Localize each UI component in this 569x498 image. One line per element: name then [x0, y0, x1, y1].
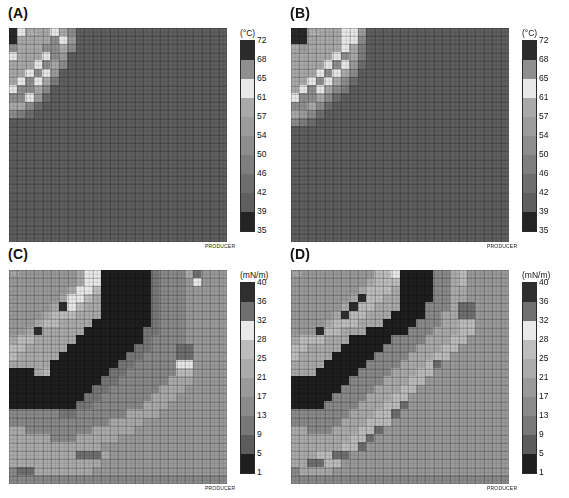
colorbar-band [241, 359, 254, 378]
colorbar-band [523, 98, 536, 117]
panel-b-colorbar: (°C) 7268656157545046423935 [522, 28, 567, 242]
panel-d-colorbar-body [522, 282, 537, 474]
colorbar-tick-label: 21 [257, 373, 266, 381]
colorbar-tick-label: 28 [257, 335, 266, 343]
panel-a-heatmap: INJ PRODUCER [9, 28, 227, 242]
colorbar-band [241, 302, 254, 321]
colorbar-tick-label: 40 [539, 278, 548, 286]
colorbar-tick-label: 50 [539, 150, 548, 158]
panel-b-label: (B) [290, 6, 310, 20]
panel-a: (A) INJ PRODUCER (°C) 726865615754504642… [0, 0, 285, 249]
panel-a-colorbar-title: (°C) [240, 28, 255, 38]
panel-a-injector-label: INJ [29, 30, 37, 36]
colorbar-tick-label: 13 [539, 411, 548, 419]
colorbar-tick-label: 39 [539, 207, 548, 215]
colorbar-tick-label: 50 [257, 150, 266, 158]
panel-c-heatmap: INJ PRODUCER [9, 270, 227, 484]
panel-b: (B) INJ PRODUCER (°C) 726865615754504642… [282, 0, 569, 249]
panel-c-canvas [9, 270, 227, 484]
colorbar-tick-label: 57 [257, 112, 266, 120]
colorbar-tick-label: 46 [539, 169, 548, 177]
colorbar-tick-label: 35 [257, 226, 266, 234]
colorbar-band [241, 340, 254, 359]
colorbar-tick-label: 36 [257, 297, 266, 305]
panel-a-colorbar: (°C) 7268656157545046423935 [240, 28, 285, 242]
colorbar-tick-label: 35 [539, 226, 548, 234]
panel-b-canvas [291, 28, 509, 242]
colorbar-band [241, 79, 254, 98]
panel-b-colorbar-body [522, 40, 537, 232]
panel-b-heatmap: INJ PRODUCER [291, 28, 509, 242]
colorbar-band [241, 435, 254, 454]
panel-d-canvas [291, 270, 509, 484]
colorbar-tick-label: 68 [539, 55, 548, 63]
colorbar-band [523, 359, 536, 378]
colorbar-tick-label: 68 [257, 55, 266, 63]
colorbar-band [523, 174, 536, 193]
colorbar-band [523, 136, 536, 155]
colorbar-band [241, 155, 254, 174]
colorbar-tick-label: 54 [257, 131, 266, 139]
panel-c-producer-label: PRODUCER [205, 485, 235, 491]
colorbar-band [523, 454, 536, 473]
colorbar-band [523, 435, 536, 454]
colorbar-band [523, 321, 536, 340]
colorbar-tick-label: 32 [539, 316, 548, 324]
colorbar-tick-label: 36 [539, 297, 548, 305]
colorbar-tick-label: 40 [257, 278, 266, 286]
colorbar-tick-label: 5 [257, 449, 262, 457]
colorbar-tick-label: 54 [539, 131, 548, 139]
colorbar-tick-label: 61 [257, 93, 266, 101]
colorbar-band [241, 98, 254, 117]
panel-d-producer-label: PRODUCER [487, 485, 517, 491]
panel-d: (D) INJ PRODUCER (mN/m) 4036322825211713… [282, 243, 569, 498]
colorbar-band [241, 60, 254, 79]
panel-b-injector-label: INJ [311, 30, 319, 36]
panel-a-canvas [9, 28, 227, 242]
colorbar-tick-label: 42 [257, 188, 266, 196]
colorbar-tick-label: 21 [539, 373, 548, 381]
colorbar-tick-label: 65 [539, 74, 548, 82]
colorbar-tick-label: 25 [539, 354, 548, 362]
colorbar-band [241, 174, 254, 193]
figure-root: (A) INJ PRODUCER (°C) 726865615754504642… [0, 0, 569, 498]
colorbar-band [241, 136, 254, 155]
colorbar-band [241, 117, 254, 136]
colorbar-tick-label: 1 [539, 468, 544, 476]
colorbar-tick-label: 72 [257, 36, 266, 44]
panel-a-label: (A) [8, 6, 28, 20]
colorbar-band [241, 321, 254, 340]
colorbar-band [523, 302, 536, 321]
colorbar-tick-label: 17 [539, 392, 548, 400]
colorbar-tick-label: 57 [539, 112, 548, 120]
colorbar-tick-label: 46 [257, 169, 266, 177]
colorbar-band [241, 416, 254, 435]
colorbar-tick-label: 9 [539, 430, 544, 438]
panel-d-injector-label: INJ [293, 271, 301, 277]
colorbar-band [523, 283, 536, 302]
colorbar-band [523, 79, 536, 98]
colorbar-tick-label: 5 [539, 449, 544, 457]
colorbar-band [523, 397, 536, 416]
panel-c-injector-label: INJ [11, 271, 19, 277]
colorbar-band [523, 378, 536, 397]
colorbar-band [241, 397, 254, 416]
panel-b-colorbar-title: (°C) [522, 28, 537, 38]
colorbar-tick-label: 13 [257, 411, 266, 419]
panel-c-colorbar: (mN/m) 4036322825211713951 [240, 270, 285, 484]
colorbar-tick-label: 39 [257, 207, 266, 215]
panel-c-colorbar-body [240, 282, 255, 474]
colorbar-band [241, 378, 254, 397]
colorbar-band [523, 117, 536, 136]
panel-d-heatmap: INJ PRODUCER [291, 270, 509, 484]
colorbar-band [241, 454, 254, 473]
colorbar-band [523, 212, 536, 231]
colorbar-band [523, 60, 536, 79]
colorbar-tick-label: 65 [257, 74, 266, 82]
colorbar-band [241, 41, 254, 60]
colorbar-band [523, 193, 536, 212]
colorbar-band [523, 41, 536, 60]
colorbar-band [241, 212, 254, 231]
colorbar-band [523, 155, 536, 174]
panel-c: (C) INJ PRODUCER (mN/m) 4036322825211713… [0, 243, 285, 498]
